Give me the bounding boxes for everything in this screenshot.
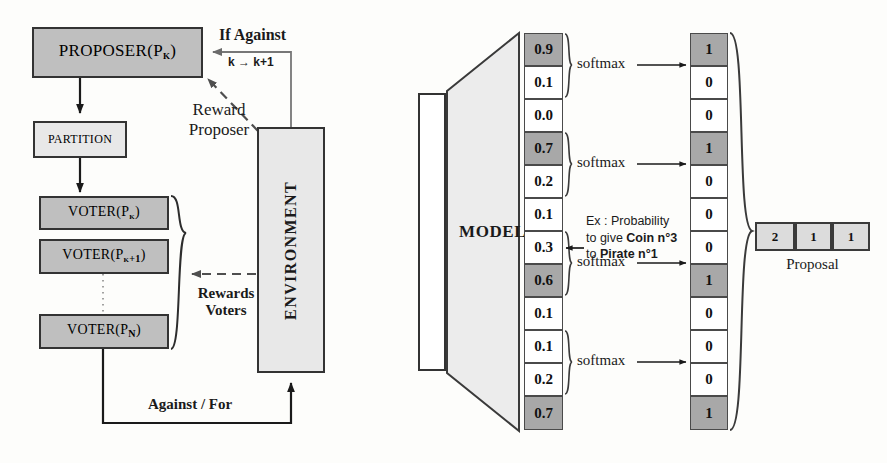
proposal-cell-2[interactable]: 1 bbox=[832, 222, 870, 251]
softmax-label-3: softmax bbox=[577, 352, 625, 369]
proposer-box[interactable]: PROPOSER(Pk) bbox=[32, 27, 203, 78]
proposal-cell-1[interactable]: 1 bbox=[795, 222, 832, 251]
annotation-line-2-bold: Coin n°3 bbox=[626, 231, 677, 245]
onehot-cell-0-1[interactable]: 0 bbox=[690, 66, 728, 99]
prob-cell-3-0[interactable]: 0.1 bbox=[524, 330, 563, 363]
proposer-label: PROPOSER(Pk) bbox=[59, 42, 176, 62]
environment-label: ENVIRONMENT bbox=[283, 181, 300, 320]
onehot-cell-3-1[interactable]: 0 bbox=[690, 363, 728, 396]
edge-label-against-for: Against / For bbox=[148, 396, 232, 413]
prob-cell-0-2[interactable]: 0.0 bbox=[524, 99, 563, 132]
prob-cell-2-2[interactable]: 0.1 bbox=[524, 297, 563, 330]
partition-label: PARTITION bbox=[48, 133, 112, 146]
onehot-cell-0-0[interactable]: 1 bbox=[690, 33, 728, 66]
onehot-cell-2-0[interactable]: 0 bbox=[690, 231, 728, 264]
annotation-line-2-plain: to give bbox=[586, 231, 626, 245]
onehot-cell-1-1[interactable]: 0 bbox=[690, 165, 728, 198]
prob-cell-2-0[interactable]: 0.3 bbox=[524, 231, 563, 264]
softmax-label-0: softmax bbox=[577, 55, 625, 72]
proposal-cell-0[interactable]: 2 bbox=[755, 222, 795, 251]
softmax-label-1: softmax bbox=[577, 154, 625, 171]
onehot-cell-0-2[interactable]: 0 bbox=[690, 99, 728, 132]
voter-k-label: VOTER(Pk) bbox=[68, 205, 140, 221]
annotation-line-1: Ex : Probability bbox=[586, 213, 677, 230]
edge-label-if-against: If Against bbox=[219, 26, 286, 44]
reward-proposer-line-1: Reward bbox=[164, 100, 274, 120]
proposal-caption: Proposal bbox=[755, 256, 870, 273]
rewards-voters-line-1: Rewards bbox=[180, 285, 272, 302]
partition-box[interactable]: PARTITION bbox=[33, 121, 127, 158]
voter-box-k[interactable]: VOTER(Pk) bbox=[39, 196, 169, 230]
onehot-group-brace bbox=[730, 33, 752, 430]
prob-cell-0-1[interactable]: 0.1 bbox=[524, 66, 563, 99]
rewards-voters-line-2: Voters bbox=[180, 302, 272, 319]
environment-box[interactable]: ENVIRONMENT bbox=[257, 127, 325, 373]
prob-cell-3-2[interactable]: 0.7 bbox=[524, 396, 563, 430]
onehot-cell-1-2[interactable]: 0 bbox=[690, 198, 728, 231]
annotation-line-3-plain: to bbox=[586, 247, 600, 261]
edge-label-rewards-voters: Rewards Voters bbox=[180, 285, 272, 320]
onehot-cell-3-2[interactable]: 1 bbox=[690, 396, 728, 430]
voter-box-k-plus-1[interactable]: VOTER(Pk+1) bbox=[39, 239, 169, 274]
edge-label-reward-proposer: Reward Proposer bbox=[164, 100, 274, 139]
onehot-cell-2-2[interactable]: 0 bbox=[690, 297, 728, 330]
diagram-canvas: PROPOSER(Pk) PARTITION VOTER(Pk) VOTER(P… bbox=[0, 0, 887, 463]
softmax-brace-group-0 bbox=[565, 34, 572, 97]
prob-cell-2-1[interactable]: 0.6 bbox=[524, 264, 563, 297]
softmax-brace-group-3 bbox=[565, 331, 572, 394]
prob-cell-3-1[interactable]: 0.2 bbox=[524, 363, 563, 396]
model-label: MODEL bbox=[459, 222, 526, 242]
annotation-line-3-bold: Pirate n°1 bbox=[600, 247, 658, 261]
prob-cell-1-0[interactable]: 0.7 bbox=[524, 132, 563, 165]
voter-n-label: VOTER(PN) bbox=[67, 323, 141, 339]
prob-cell-1-2[interactable]: 0.1 bbox=[524, 198, 563, 231]
onehot-cell-2-1[interactable]: 1 bbox=[690, 264, 728, 297]
prob-cell-1-1[interactable]: 0.2 bbox=[524, 165, 563, 198]
prob-cell-0-0[interactable]: 0.9 bbox=[524, 33, 563, 66]
edge-label-k-increment: k → k+1 bbox=[228, 56, 274, 70]
model-input-vector[interactable] bbox=[418, 93, 446, 371]
voters-group-brace bbox=[171, 196, 186, 349]
reward-proposer-line-2: Proposer bbox=[164, 120, 274, 140]
probability-annotation: Ex : Probability to give Coin n°3 to Pir… bbox=[586, 213, 677, 263]
onehot-cell-3-0[interactable]: 0 bbox=[690, 330, 728, 363]
softmax-brace-group-1 bbox=[565, 133, 572, 196]
softmax-brace-group-2 bbox=[565, 232, 572, 295]
voter-box-n[interactable]: VOTER(PN) bbox=[39, 314, 169, 349]
onehot-cell-1-0[interactable]: 1 bbox=[690, 132, 728, 165]
voter-k-plus-1-label: VOTER(Pk+1) bbox=[62, 248, 145, 264]
annotation-line-2: to give Coin n°3 bbox=[586, 230, 677, 247]
annotation-line-3: to Pirate n°1 bbox=[586, 246, 677, 263]
